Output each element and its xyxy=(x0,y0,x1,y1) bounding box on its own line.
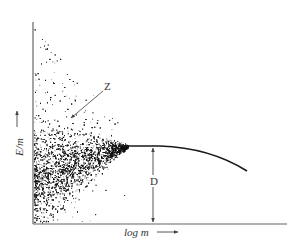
z-arrow xyxy=(71,91,103,118)
z-annotation-label: Z xyxy=(104,80,111,92)
energy-curve xyxy=(118,146,247,171)
diagram-canvas xyxy=(0,0,305,250)
d-annotation-label: D xyxy=(149,175,159,187)
y-axis-label: E/m xyxy=(13,132,25,162)
scatter-cloud xyxy=(34,29,129,223)
x-axis-label: log m xyxy=(124,226,149,238)
